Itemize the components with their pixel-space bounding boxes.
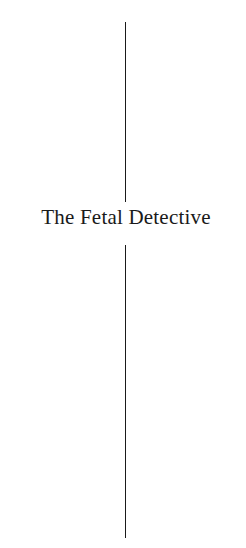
- vertical-rule-bottom: [125, 245, 126, 538]
- vertical-rule-top: [125, 22, 126, 202]
- page-title: The Fetal Detective: [0, 203, 246, 231]
